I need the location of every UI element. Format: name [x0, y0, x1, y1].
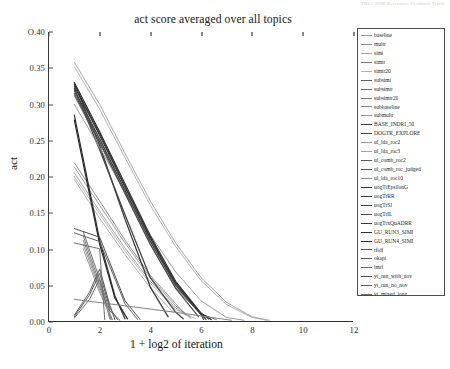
legend-item-label: tfidf — [374, 246, 383, 255]
series-line — [83, 240, 112, 319]
y-tick-mark — [49, 177, 53, 178]
legend-item-label: uogTrSJ — [374, 201, 392, 210]
y-tick-mark — [49, 68, 53, 69]
legend-color-swatch — [361, 71, 372, 72]
legend-item-label: ul_lda_roc10 — [374, 174, 403, 183]
legend-item[interactable]: submultr — [360, 111, 443, 120]
legend-item[interactable]: DOGTR_EXPLORE — [360, 129, 443, 138]
x-tick-label: 6 — [199, 325, 203, 335]
legend-color-swatch — [361, 276, 372, 277]
legend-item-label: subsimtr — [374, 85, 393, 94]
legend-color-swatch — [361, 205, 372, 206]
legend-item[interactable]: uogTrEpsilonG — [360, 183, 443, 192]
legend-item[interactable]: yt_run_no_nov — [360, 281, 443, 290]
legend-color-swatch — [361, 115, 372, 116]
chart-page: TREC 2008 Relevance Feedback Track act s… — [0, 0, 450, 369]
y-tick-mark — [49, 32, 53, 33]
legend-item-label: submultr — [374, 111, 394, 120]
legend-color-swatch — [361, 151, 372, 152]
legend-color-swatch — [361, 98, 372, 99]
y-tick-mark — [49, 213, 53, 214]
legend-item[interactable]: okapi — [360, 254, 443, 263]
legend-item-label: ul_comb_roc2 — [374, 156, 406, 165]
legend-color-swatch — [361, 124, 372, 125]
x-top-tick-mark — [150, 32, 151, 36]
y-tick-label: 0.35 — [30, 63, 45, 73]
legend-item-label: yt_mixed_long — [374, 290, 407, 296]
legend-item[interactable]: GU_RUN4_SIMI — [360, 237, 443, 246]
x-tick-label: 8 — [250, 325, 254, 335]
legend[interactable]: baselinemultrsimisimtrsimtr20subsimisubs… — [357, 28, 445, 296]
legend-item-label: simtr20 — [374, 67, 391, 76]
legend-item[interactable]: baseline — [360, 31, 443, 40]
y-tick-label: 0.10 — [30, 245, 45, 255]
legend-color-swatch — [361, 89, 372, 90]
legend-item-label: subsimtr20 — [374, 94, 398, 103]
legend-item[interactable]: ul_lda_roc3 — [360, 147, 443, 156]
legend-item[interactable]: ul_comb_roc2 — [360, 156, 443, 165]
legend-color-swatch — [361, 294, 372, 295]
legend-item-label: GU_RUN3_SIMI — [374, 228, 413, 237]
legend-item[interactable]: subbaseline — [360, 103, 443, 112]
legend-item-label: DOGTR_EXPLORE — [374, 129, 420, 138]
legend-color-swatch — [361, 106, 372, 107]
x-tick-mark — [49, 32, 50, 36]
y-tick-mark — [49, 249, 53, 250]
y-axis-label: act — [7, 157, 19, 170]
legend-item[interactable]: uogTrIL — [360, 210, 443, 219]
scan-artifact-text: TREC 2008 Relevance Feedback Track — [361, 1, 444, 6]
legend-item-label: baseline — [374, 31, 392, 40]
chart-title: act score averaged over all topics — [0, 13, 438, 26]
legend-item[interactable]: uogTrSJ — [360, 201, 443, 210]
legend-item[interactable]: tfidf — [360, 246, 443, 255]
legend-color-swatch — [361, 160, 372, 161]
legend-item-label: ul_lda_roc3 — [374, 147, 400, 156]
legend-item[interactable]: BASE_INDRI_50 — [360, 120, 443, 129]
x-tick-label: 4 — [148, 325, 152, 335]
legend-item[interactable]: lmrf — [360, 263, 443, 272]
x-top-tick-mark — [303, 32, 304, 36]
legend-item[interactable]: ul_lda_roc10 — [360, 174, 443, 183]
legend-color-swatch — [361, 267, 372, 268]
legend-item-label: ul_comb_roc_judged — [374, 165, 421, 174]
y-tick-mark — [49, 104, 53, 105]
y-tick-label: O.40 — [28, 27, 45, 37]
legend-item[interactable]: simtr20 — [360, 67, 443, 76]
x-top-tick-mark — [201, 32, 202, 36]
legend-item[interactable]: uogTrxQuADRR — [360, 219, 443, 228]
legend-item[interactable]: GU_RUN3_SIMI — [360, 228, 443, 237]
legend-item[interactable]: ul_comb_roc_judged — [360, 165, 443, 174]
legend-item-label: subbaseline — [374, 103, 400, 112]
legend-item[interactable]: ul_lda_roc2 — [360, 138, 443, 147]
legend-item-label: uogTrIL — [374, 210, 392, 219]
y-tick-label: 0.30 — [30, 100, 45, 110]
legend-color-swatch — [361, 44, 372, 45]
legend-item[interactable]: multr — [360, 40, 443, 49]
y-tick-mark — [49, 322, 53, 323]
legend-item[interactable]: subsimtr20 — [360, 94, 443, 103]
legend-color-swatch — [361, 285, 372, 286]
legend-item-label: lmrf — [374, 263, 383, 272]
y-tick-label: 0.00 — [30, 317, 45, 327]
legend-item[interactable]: simtr — [360, 58, 443, 67]
y-tick-label: 0.15 — [30, 208, 45, 218]
legend-color-swatch — [361, 80, 372, 81]
legend-item-label: subsimi — [374, 76, 391, 85]
legend-item-label: yt_run_no_nov — [374, 281, 408, 290]
x-top-tick-mark — [354, 32, 355, 36]
legend-item[interactable]: subsimi — [360, 76, 443, 85]
legend-item-label: ul_lda_roc2 — [374, 138, 400, 147]
legend-item[interactable]: yt_run_with_nov — [360, 272, 443, 281]
x-tick-label: 2 — [98, 325, 102, 335]
legend-color-swatch — [361, 232, 372, 233]
x-tick-label: 0 — [47, 325, 51, 335]
legend-item[interactable]: uogTrRR — [360, 192, 443, 201]
legend-item[interactable]: yt_mixed_long — [360, 290, 443, 296]
legend-item[interactable]: subsimtr — [360, 85, 443, 94]
x-tick-label: 10 — [299, 325, 308, 335]
series-line — [74, 299, 231, 320]
y-tick-label: 0.20 — [30, 172, 45, 182]
legend-color-swatch — [361, 178, 372, 179]
legend-color-swatch — [361, 187, 372, 188]
legend-item[interactable]: simi — [360, 49, 443, 58]
